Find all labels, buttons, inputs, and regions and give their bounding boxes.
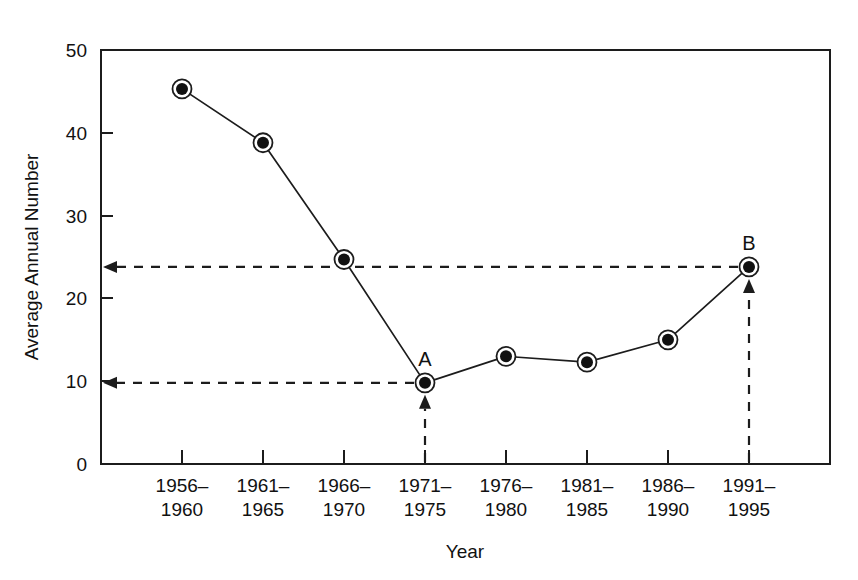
point-annotation-b: B — [742, 232, 755, 254]
data-point-marker — [500, 350, 512, 362]
y-tick-label: 20 — [66, 288, 87, 309]
data-point-marker — [419, 377, 431, 389]
data-point-marker — [338, 253, 350, 265]
y-tick-label: 50 — [66, 40, 87, 61]
data-point-marker — [743, 261, 755, 273]
point-annotation-a: A — [418, 348, 432, 370]
x-axis-title: Year — [446, 541, 485, 562]
line-chart: 01020304050 1956–19601961–19651966–19701… — [0, 0, 858, 580]
data-point-marker — [581, 356, 593, 368]
y-tick-label: 10 — [66, 371, 87, 392]
chart-figure: 01020304050 1956–19601961–19651966–19701… — [0, 0, 858, 580]
y-tick-label: 30 — [66, 206, 87, 227]
data-point-marker — [662, 334, 674, 346]
data-point-marker — [176, 83, 188, 95]
y-tick-label: 40 — [66, 123, 87, 144]
y-axis-title: Average Annual Number — [21, 153, 42, 360]
data-point-marker — [257, 137, 269, 149]
y-tick-label: 0 — [76, 454, 87, 475]
